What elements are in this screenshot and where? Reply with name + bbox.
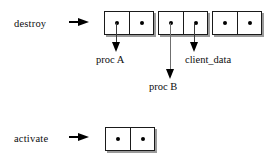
pointer-dot-icon — [223, 21, 227, 25]
diagram-canvas: destroy proc A proc B — [0, 0, 271, 159]
right-arrow-icon-destroy — [69, 18, 90, 27]
pointer-line-client-data — [194, 23, 195, 44]
right-arrow-icon-activate — [69, 133, 90, 142]
cons-cell-pair-4 — [105, 127, 155, 151]
arrow-head — [78, 133, 89, 141]
arrow-head — [78, 18, 89, 26]
cons-cell-pair-3 — [212, 11, 262, 35]
annotation-client-data: client_data — [185, 54, 231, 66]
cons-cell-pair-2 — [158, 11, 208, 35]
cons-cell-pair-3-cdr — [237, 12, 261, 34]
pointer-line-proc-a — [116, 23, 117, 44]
pointer-arrowhead-proc-b — [166, 69, 174, 79]
cons-cell-pair-1 — [104, 11, 154, 35]
cons-cell-pair-1-car — [105, 12, 129, 34]
cons-cell-pair-3-car — [213, 12, 237, 34]
pointer-dot-icon — [141, 137, 145, 141]
pointer-dot-icon — [140, 21, 144, 25]
annotation-proc-b: proc B — [149, 81, 177, 93]
pointer-line-proc-b — [170, 23, 171, 71]
cons-cell-pair-2-car — [159, 12, 183, 34]
row-label-destroy: destroy — [14, 18, 46, 30]
pointer-arrowhead-client-data — [190, 42, 198, 52]
pointer-dot-icon — [116, 137, 120, 141]
pointer-arrowhead-proc-a — [112, 42, 120, 52]
cons-cell-pair-2-cdr — [183, 12, 207, 34]
cons-cell-pair-4-cdr — [130, 128, 154, 150]
annotation-proc-a: proc A — [96, 54, 124, 66]
pointer-dot-icon — [248, 21, 252, 25]
cons-cell-pair-4-car — [106, 128, 130, 150]
row-label-activate: activate — [14, 133, 48, 145]
cons-cell-pair-1-cdr — [129, 12, 153, 34]
